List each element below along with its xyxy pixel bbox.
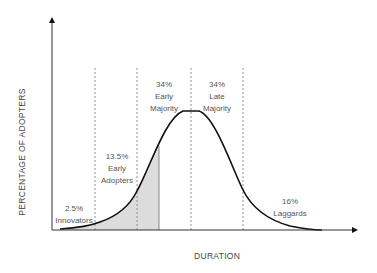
y-axis-title: PERCENTAGE OF ADOPTERS [17,88,27,215]
early-majority-percent: 34% [140,79,188,91]
label-early-majority: 34% Early Majority [140,79,188,115]
early-adopters-name-2: Adopters [97,175,137,187]
late-majority-percent: 34% [193,79,241,91]
early-adopters-percent: 13.5% [97,151,137,163]
x-axis-title: DURATION [194,251,240,261]
label-late-majority: 34% Late Majority [193,79,241,115]
innovators-percent: 2.5% [54,203,94,215]
late-majority-name-1: Late [193,91,241,103]
laggards-name: Laggards [270,208,310,220]
label-early-adopters: 13.5% Early Adopters [97,151,137,187]
x-axis-arrow-icon [352,227,358,233]
early-majority-name-2: Majority [140,103,188,115]
late-majority-name-2: Majority [193,103,241,115]
label-innovators: 2.5% Innovators [54,203,94,227]
innovators-name: Innovators [54,215,94,227]
adoption-curve-diagram [0,0,377,273]
early-majority-name-1: Early [140,91,188,103]
early-adopters-name-1: Early [97,163,137,175]
y-axis-arrow-icon [49,17,55,23]
label-laggards: 16% Laggards [270,196,310,220]
laggards-percent: 16% [270,196,310,208]
